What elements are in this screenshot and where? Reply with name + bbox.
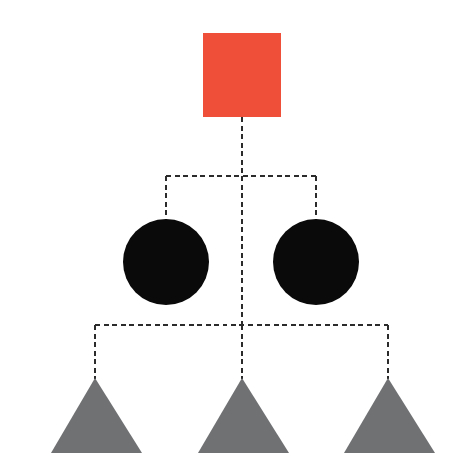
diagram-canvas: root square left circle right circle lef… xyxy=(0,0,463,471)
node-circle-right[interactable] xyxy=(273,219,359,305)
node-circle-left[interactable] xyxy=(123,219,209,305)
diagram-svg xyxy=(0,0,463,471)
node-root-square[interactable] xyxy=(203,33,281,117)
